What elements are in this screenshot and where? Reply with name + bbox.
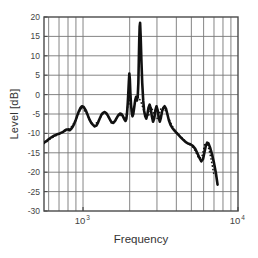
y-tick-label: 15 [31,31,41,41]
y-tick-label: 0 [35,90,40,100]
x-tick-label: 10 [75,215,86,226]
y-tick-label: 5 [35,70,40,80]
frequency-response-figure: 20151050-5-10-15-20-25-30 103104 Frequen… [0,0,258,258]
y-tick-label: 20 [31,12,41,22]
y-tick-label: -10 [28,128,41,138]
chart-canvas: 20151050-5-10-15-20-25-30 103104 Frequen… [0,0,258,258]
y-tick-label: -15 [28,148,41,158]
y-axis-title: Level [dB] [8,89,20,140]
y-tick-label: -30 [28,206,41,216]
y-tick-label: 10 [31,51,41,61]
x-axis-title: Frequency [114,233,169,245]
y-tick-label: -5 [32,109,40,119]
y-tick-label: -25 [28,187,41,197]
y-tick-label: -20 [28,167,41,177]
x-tick-exponent: 3 [86,214,90,221]
x-tick-exponent: 4 [241,214,245,221]
x-tick-label: 10 [230,215,241,226]
